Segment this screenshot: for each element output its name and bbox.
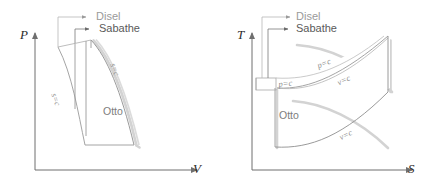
ts-diagram-graphics [218,0,436,191]
ts-sabathe-step [256,78,276,90]
ts-callout-leaders [262,17,290,78]
thermodynamic-cycles-figure: P V Disel Sabathe Otto s=c s=c [0,0,436,191]
pressure-volume-diagram: P V Disel Sabathe Otto s=c s=c [0,0,218,191]
pv-diagram-graphics [0,0,218,191]
temperature-entropy-diagram: T S Disel Sabathe Otto p=c p=c v=c v=c [218,0,436,191]
